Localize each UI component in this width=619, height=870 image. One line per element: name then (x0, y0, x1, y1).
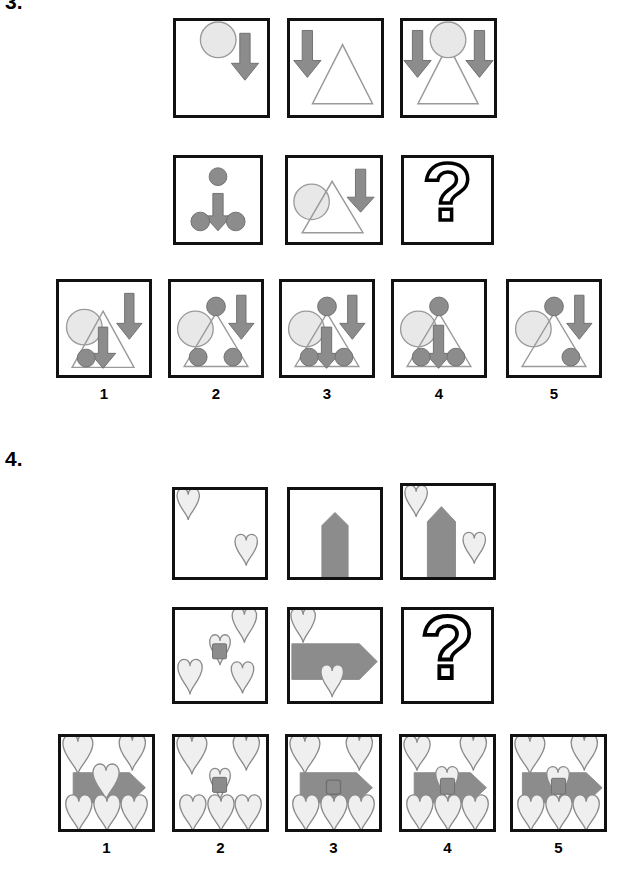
heart-top-left (515, 737, 545, 775)
puzzle-3-option-1-number: 1 (56, 386, 152, 401)
square-on-heart (213, 777, 227, 792)
heart-top-left (177, 737, 207, 775)
question-mark-icon: ? (404, 610, 491, 701)
puzzle-4-option-5[interactable] (510, 734, 607, 832)
small-dark-circle-top (209, 168, 227, 186)
small-dark-circle-right (447, 348, 465, 366)
puzzle-4-matrix-cell-r1c1[interactable] (172, 487, 268, 580)
small-dark-circle-left (77, 349, 95, 367)
heart-bottom-center (546, 795, 572, 829)
puzzle-3-matrix-cell-r2c1[interactable] (173, 155, 263, 245)
puzzle-3-option-5-number: 5 (506, 386, 602, 401)
heart-bottom-left (293, 795, 319, 829)
heart-bottom-right (463, 532, 486, 564)
heart-top-right (460, 737, 486, 771)
heart-top-left (405, 486, 428, 517)
puzzle-4-option-5-number: 5 (510, 840, 607, 855)
square-on-heart (440, 778, 454, 794)
puzzle-3-option-3[interactable] (279, 279, 375, 378)
up-pentagon-arrow (427, 507, 455, 577)
down-arrow (294, 30, 321, 77)
small-dark-circle-right (562, 348, 580, 366)
heart-bottom-center (435, 795, 461, 829)
puzzle-4-option-1-number: 1 (58, 840, 155, 855)
heart-bottom-left (178, 659, 202, 694)
puzzle-4-matrix-cell-r1c2[interactable] (287, 487, 383, 580)
heart-bottom-right (121, 795, 147, 829)
heart-bottom-right (235, 795, 261, 829)
big-light-circle (516, 311, 552, 347)
puzzle-4-option-4-number: 4 (399, 840, 496, 855)
square-on-heart (213, 644, 227, 659)
down-arrow-right (466, 30, 493, 77)
question-mark-glyph: ? (421, 610, 475, 697)
down-arrow-right (567, 295, 592, 339)
big-light-circle (200, 22, 236, 58)
small-dark-circle-left (191, 212, 210, 231)
puzzle-3-matrix-cell-r1c2[interactable] (287, 18, 384, 118)
puzzle-4-matrix-cell-r2c1[interactable] (172, 607, 268, 704)
heart-bottom-right (235, 534, 257, 565)
small-dark-circle-top (430, 297, 449, 316)
puzzle-3-matrix-cell-r1c1[interactable] (173, 18, 270, 118)
heart-top-left (404, 737, 430, 771)
puzzle-4-option-3-number: 3 (285, 840, 382, 855)
small-dark-circle-right (224, 348, 242, 366)
small-dark-circle-top (318, 297, 337, 316)
puzzle-3-option-1[interactable] (56, 279, 152, 378)
big-light-circle (294, 184, 329, 219)
puzzle-4-label: 4. (5, 448, 23, 469)
big-light-circle (401, 311, 437, 347)
puzzle-4-option-4[interactable] (399, 734, 496, 832)
down-arrow-right (229, 295, 254, 339)
puzzle-3-option-3-number: 3 (279, 386, 375, 401)
puzzle-4-matrix-cell-r1c3[interactable] (400, 483, 496, 580)
heart-top-left (63, 737, 93, 775)
heart-top-right (232, 610, 256, 643)
puzzle-4-option-2[interactable] (172, 734, 269, 832)
heart-top-left (177, 490, 199, 520)
question-mark-glyph: ? (423, 158, 473, 237)
puzzle-3-option-5[interactable] (506, 279, 602, 378)
puzzle-4-matrix-cell-r2c2[interactable] (287, 607, 383, 704)
down-arrow-right (340, 295, 365, 339)
heart-top-left (291, 610, 315, 643)
heart-bottom-left (66, 795, 92, 829)
big-light-circle (178, 311, 214, 347)
puzzle-4-option-1[interactable] (58, 734, 155, 832)
heart-bottom-left (407, 795, 433, 829)
puzzle-4-option-2-number: 2 (172, 840, 269, 855)
heart-top-right (233, 737, 259, 771)
puzzle-3-option-2[interactable] (168, 279, 264, 378)
up-pentagon-arrow (322, 512, 348, 577)
puzzle-3-label: 3. (5, 0, 23, 12)
heart-bottom-right (231, 662, 254, 694)
puzzle-3-option-4[interactable] (391, 279, 487, 378)
heart-bottom-right (462, 795, 488, 829)
big-light-circle (67, 309, 103, 345)
small-dark-circle-right (335, 348, 353, 366)
puzzle-3-matrix-cell-r2c2[interactable] (285, 155, 383, 245)
heart-bottom-left (180, 795, 206, 829)
heart-bottom-center (321, 795, 347, 829)
heart-bottom-right (348, 795, 374, 829)
puzzle-3-option-4-number: 4 (391, 386, 487, 401)
puzzle-4-option-3[interactable] (285, 734, 382, 832)
heart-bottom-center (94, 795, 120, 829)
heart-top-right (571, 737, 597, 771)
heart-bottom-right (573, 795, 599, 829)
puzzle-4-matrix-cell-r2c3-answer[interactable]: ? (401, 607, 494, 704)
heart-top-left (290, 737, 320, 775)
square-on-arrow (326, 780, 340, 794)
puzzle-3-matrix-cell-r1c3[interactable] (400, 18, 497, 118)
heart-top-right (119, 737, 145, 771)
triangle-outline (313, 45, 373, 104)
heart-bottom-left (518, 795, 544, 829)
small-dark-circle-top (207, 297, 226, 316)
puzzle-3-matrix-cell-r2c3-answer[interactable]: ? (401, 155, 494, 245)
down-arrow-right (117, 293, 142, 339)
small-dark-circle-right (226, 212, 245, 231)
down-arrow-left (404, 30, 431, 77)
small-dark-circle-left (189, 348, 207, 366)
heart-top-right (346, 737, 372, 771)
